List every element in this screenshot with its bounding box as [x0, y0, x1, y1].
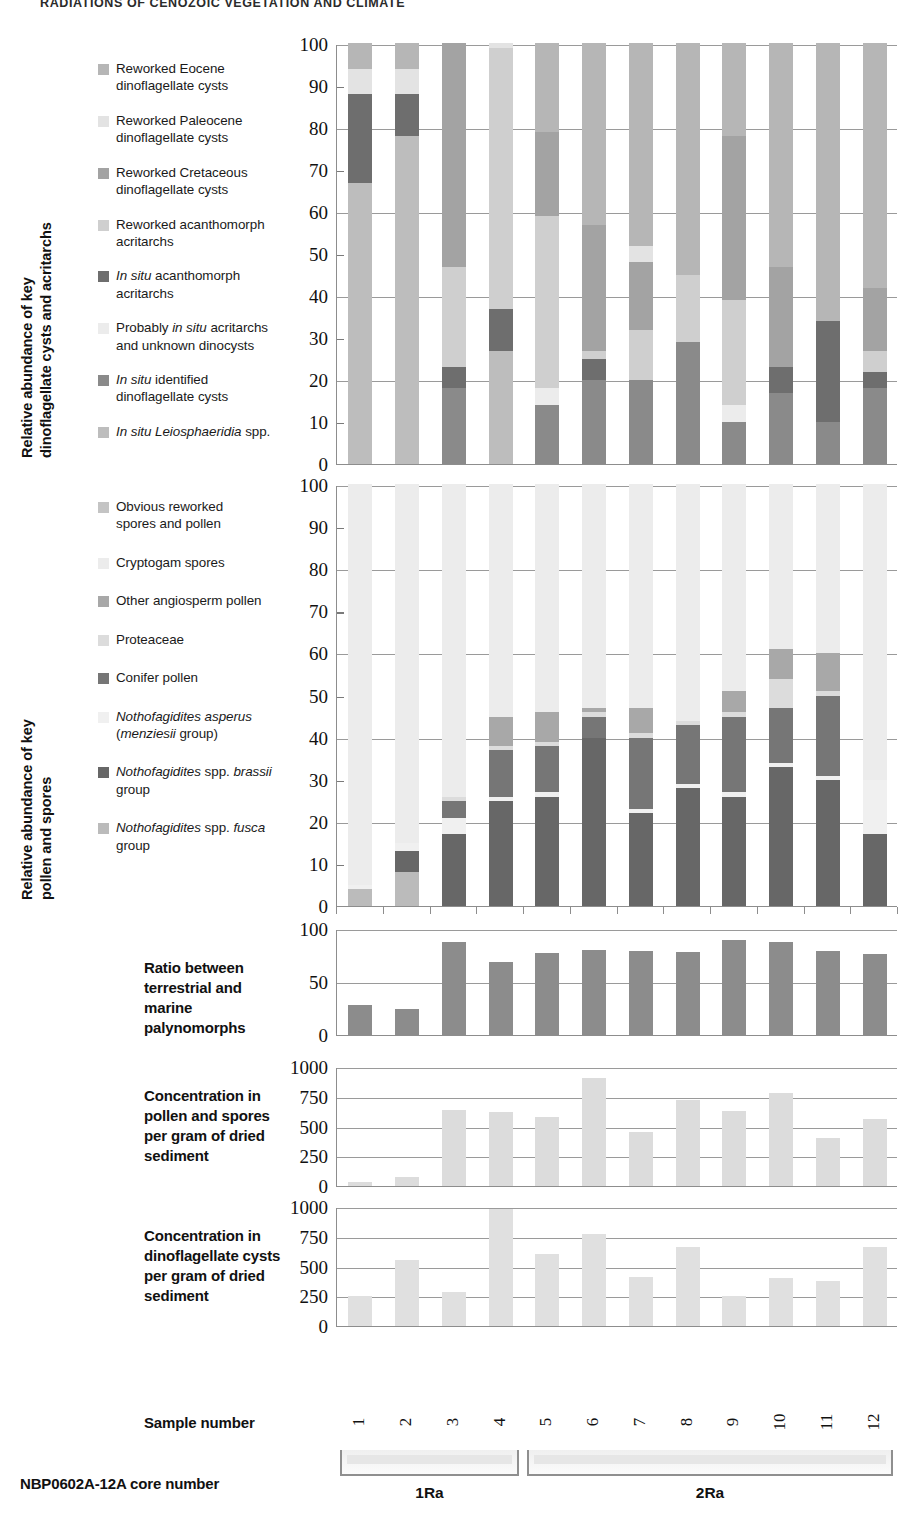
- y-tickmark: [337, 87, 344, 88]
- y-tick-label: 0: [270, 1316, 328, 1338]
- bar-segment: [348, 889, 372, 906]
- legend-swatch-icon: [98, 271, 109, 282]
- bar-segment: [489, 484, 513, 716]
- bar-segment: [442, 43, 466, 266]
- legend-swatch-icon: [98, 375, 109, 386]
- bar-sample-4: [489, 1209, 513, 1326]
- legend-swatch-icon: [98, 168, 109, 179]
- bar-segment: [489, 43, 513, 48]
- bar-segment: [395, 484, 419, 842]
- bar-sample-9: [722, 44, 746, 464]
- bar-segment: [722, 712, 746, 717]
- sample-label-12: 12: [864, 1402, 884, 1442]
- bar-segment: [629, 809, 653, 814]
- x-tickmark: [804, 907, 805, 914]
- legend-item-label: In situ identifieddinoflagellate cysts: [116, 371, 228, 406]
- bar-segment: [816, 321, 840, 422]
- gridline: [337, 1098, 897, 1099]
- bar-segment: [769, 766, 793, 906]
- bar-segment: [816, 691, 840, 696]
- bar-sample-9: [722, 485, 746, 906]
- bar-segment: [582, 358, 606, 380]
- bar-sample-10: [769, 942, 793, 1035]
- bar-segment: [769, 708, 793, 763]
- bar-sample-1: [348, 1296, 372, 1326]
- y-tick-label: 50: [270, 686, 328, 708]
- y-tick-label: 1000: [270, 1057, 328, 1079]
- bar-segment: [489, 350, 513, 464]
- bar-segment: [629, 733, 653, 738]
- bar-sample-6: [582, 1078, 606, 1186]
- y-tick-label: 100: [270, 919, 328, 941]
- bar-segment: [535, 132, 559, 217]
- x-tickmark: [430, 907, 431, 914]
- gridline: [337, 1128, 897, 1129]
- bar-sample-6: [582, 44, 606, 464]
- y-tickmark: [337, 528, 344, 529]
- y-tick-label: 70: [270, 160, 328, 182]
- bar-segment: [582, 484, 606, 708]
- bar-segment: [395, 872, 419, 906]
- gridline: [337, 930, 897, 931]
- legend-item-label: Reworked Eocenedinoflagellate cysts: [116, 60, 228, 95]
- bar-sample-1: [348, 1005, 372, 1035]
- bar-sample-3: [442, 1110, 466, 1186]
- y-tick-label: 20: [270, 370, 328, 392]
- legend-swatch-icon: [98, 116, 109, 127]
- y-tickmark: [337, 171, 344, 172]
- bar-sample-5: [535, 44, 559, 464]
- bar-segment: [582, 350, 606, 359]
- bar-sample-11: [816, 951, 840, 1035]
- sample-label-5: 5: [536, 1402, 556, 1442]
- gridline: [337, 381, 897, 382]
- bar-segment: [582, 379, 606, 464]
- plot-dinocyst-concentration: [336, 1208, 897, 1327]
- bar-segment: [535, 745, 559, 792]
- legend-swatch-icon: [98, 596, 109, 607]
- legend-item: Probably in situ acritarchsand unknown d…: [98, 319, 298, 354]
- bar-segment: [582, 708, 606, 713]
- bar-segment: [489, 308, 513, 351]
- gridline: [337, 983, 897, 984]
- x-tickmark: [663, 907, 664, 914]
- bar-segment: [489, 750, 513, 797]
- bar-segment: [863, 834, 887, 906]
- bar-sample-11: [816, 1281, 840, 1326]
- core-bracket-2Ra: [527, 1450, 893, 1476]
- x-tickmark: [383, 907, 384, 914]
- bar-sample-3: [442, 1292, 466, 1326]
- bar-segment: [722, 792, 746, 797]
- bar-segment: [863, 484, 887, 779]
- gridline: [337, 823, 897, 824]
- y-tick-label: 40: [270, 728, 328, 750]
- bar-segment: [863, 388, 887, 464]
- gridline: [337, 129, 897, 130]
- sample-label-9: 9: [723, 1402, 743, 1442]
- gridline: [337, 654, 897, 655]
- bar-sample-5: [535, 485, 559, 906]
- y-tick-label: 0: [270, 1176, 328, 1198]
- bar-sample-8: [676, 1100, 700, 1186]
- bar-segment: [629, 245, 653, 262]
- bar-segment: [769, 649, 793, 679]
- y-tick-label: 0: [270, 454, 328, 476]
- bar-segment: [535, 712, 559, 742]
- bar-sample-8: [676, 952, 700, 1035]
- bar-sample-10: [769, 1278, 793, 1326]
- y-tick-label: 60: [270, 643, 328, 665]
- y-tick-label: 30: [270, 328, 328, 350]
- bar-sample-8: [676, 44, 700, 464]
- bar-segment: [395, 851, 419, 873]
- bar-segment: [863, 350, 887, 372]
- x-tickmark: [850, 907, 851, 914]
- bar-segment: [722, 405, 746, 422]
- y-tick-label: 0: [270, 896, 328, 918]
- bar-segment: [629, 813, 653, 906]
- bar-segment: [535, 388, 559, 405]
- y-tick-label: 80: [270, 118, 328, 140]
- legend-item: In situ Leiosphaeridia spp.: [98, 423, 298, 440]
- y-tick-label: 100: [270, 34, 328, 56]
- sample-label-11: 11: [817, 1402, 837, 1442]
- bar-segment: [489, 800, 513, 906]
- bar-segment: [348, 94, 372, 183]
